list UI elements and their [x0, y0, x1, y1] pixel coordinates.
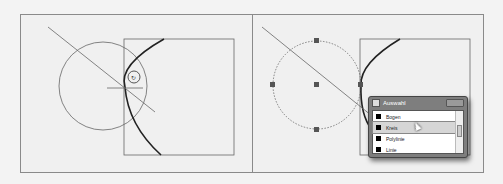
color-swatch-icon: [376, 147, 381, 152]
grip-center: [314, 82, 319, 87]
grip-right: [358, 82, 363, 87]
list-scrollbar[interactable]: [455, 111, 463, 153]
grip-top: [314, 38, 319, 43]
list-item-bogen[interactable]: Bogen: [373, 111, 455, 122]
color-swatch-icon: [376, 136, 381, 141]
color-swatch-icon: [376, 114, 381, 119]
svg-text:↻: ↻: [131, 75, 136, 81]
selection-list[interactable]: Bogen Kreis Polylinie Linie: [372, 110, 464, 154]
list-item-polylinie[interactable]: Polylinie: [373, 133, 455, 144]
list-item-linie[interactable]: Linie: [373, 144, 455, 155]
color-swatch-icon: [376, 125, 381, 130]
window-icon: [372, 99, 380, 107]
popup-title: Auswahl: [383, 100, 406, 106]
scrollbar-thumb[interactable]: [457, 125, 462, 137]
grip-bottom: [314, 127, 319, 132]
left-drawing: ↻: [21, 15, 252, 174]
grip-left: [270, 82, 275, 87]
popup-titlebar[interactable]: Auswahl: [369, 97, 467, 109]
close-button[interactable]: [446, 99, 464, 107]
left-panel-canvas: ↻: [21, 15, 253, 172]
